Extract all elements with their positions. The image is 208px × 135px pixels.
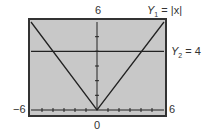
- graph-screen: [0, 0, 208, 135]
- origin-label: 0: [94, 120, 100, 131]
- legend-y1: Y1 = |x|: [147, 5, 182, 20]
- legend-y1-expr: = |x|: [158, 4, 182, 16]
- x-min-label: −6: [13, 104, 26, 115]
- x-max-label: 6: [169, 104, 175, 115]
- legend-y2-expr: = 4: [182, 45, 201, 57]
- legend-y2: Y2 = 4: [171, 46, 201, 61]
- y-max-label: 6: [95, 5, 101, 16]
